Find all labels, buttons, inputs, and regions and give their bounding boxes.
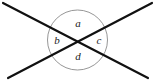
- angle-label-a: a: [75, 17, 81, 29]
- angle-label-b: b: [54, 34, 60, 46]
- intersecting-lines-diagram: a b c d: [0, 0, 155, 82]
- angle-label-d: d: [75, 50, 81, 62]
- geometry-figure: a b c d: [0, 0, 155, 82]
- angle-label-c: c: [97, 34, 102, 46]
